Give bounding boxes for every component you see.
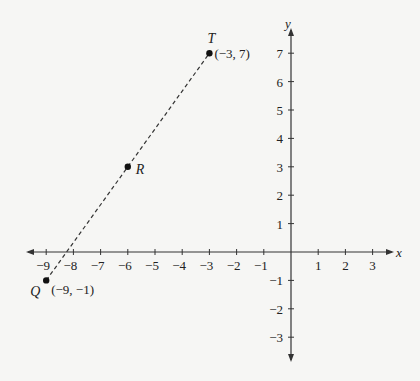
- point-label-Q: Q: [30, 284, 40, 299]
- x-tick-label: −2: [227, 258, 241, 273]
- coordinate-plane: xy−9−8−7−6−5−4−3−2−1123−3−2−11234567T(−3…: [0, 0, 420, 381]
- x-tick-label: 3: [369, 258, 376, 273]
- point-T: [206, 50, 212, 56]
- y-tick-label: −2: [269, 302, 283, 317]
- point-coords-Q: (−9, −1): [51, 282, 94, 297]
- point-label-R: R: [135, 162, 145, 177]
- y-axis-down-arrow-icon: [288, 354, 294, 362]
- x-axis-right-arrow-icon: [386, 249, 394, 255]
- x-tick-label: 1: [315, 258, 322, 273]
- y-axis-label: y: [283, 16, 291, 31]
- x-tick-label: −8: [63, 258, 77, 273]
- x-tick-label: −9: [36, 258, 50, 273]
- y-tick-label: −3: [269, 330, 283, 345]
- point-Q: [43, 277, 49, 283]
- point-coords-T: (−3, 7): [214, 46, 250, 61]
- y-tick-label: 1: [277, 217, 284, 232]
- y-tick-label: 2: [277, 188, 284, 203]
- x-tick-label: 2: [342, 258, 349, 273]
- x-tick-label: −4: [172, 258, 186, 273]
- y-tick-label: 3: [277, 160, 284, 175]
- x-tick-label: −3: [199, 258, 213, 273]
- x-tick-label: −1: [254, 258, 268, 273]
- x-tick-label: −6: [118, 258, 132, 273]
- x-tick-label: −5: [145, 258, 159, 273]
- y-tick-label: 5: [277, 103, 284, 118]
- y-tick-label: 6: [277, 75, 284, 90]
- y-tick-label: 7: [277, 46, 284, 61]
- point-label-T: T: [207, 31, 216, 46]
- x-axis-label: x: [395, 245, 402, 260]
- point-R: [125, 164, 131, 170]
- y-tick-label: 4: [277, 131, 284, 146]
- x-tick-label: −7: [91, 258, 105, 273]
- y-tick-label: −1: [269, 273, 283, 288]
- x-axis-left-arrow-icon: [26, 249, 34, 255]
